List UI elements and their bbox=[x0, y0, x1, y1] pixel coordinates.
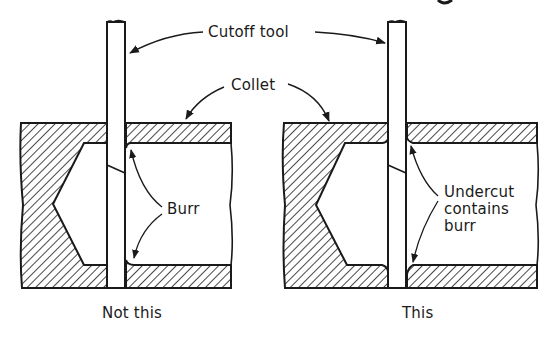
caption-this: This bbox=[402, 305, 433, 321]
left-workpiece-edge bbox=[230, 143, 232, 265]
left-cutoff-tool bbox=[107, 22, 125, 288]
left-burr-arrow-top bbox=[131, 150, 162, 207]
caption-not-this: Not this bbox=[102, 305, 162, 321]
clipped-heading-descender bbox=[438, 0, 452, 3]
right-undercut-arrow-top bbox=[411, 146, 438, 196]
collet-label: Collet bbox=[231, 77, 275, 93]
collet-arrow-left bbox=[186, 87, 224, 119]
right-cutoff-tool bbox=[388, 22, 406, 288]
collet-arrow-right bbox=[288, 84, 329, 121]
left-collet-bottom-bar bbox=[126, 260, 231, 288]
cutoff-tool-label: Cutoff tool bbox=[208, 24, 289, 40]
cutoff-tool-arrow-right bbox=[315, 32, 385, 43]
cutoff-diagram: Cutoff tool Collet Burr Undercut contain… bbox=[0, 0, 559, 338]
right-collet-top-bar bbox=[407, 123, 537, 143]
undercut-label: Undercut contains burr bbox=[444, 184, 514, 235]
left-diagram bbox=[20, 21, 232, 289]
right-collet-bottom-bar bbox=[407, 265, 537, 288]
right-diagram bbox=[283, 21, 539, 289]
burr-label: Burr bbox=[167, 201, 200, 217]
cutoff-tool-arrow-left bbox=[130, 32, 203, 53]
right-collet-section-left bbox=[283, 123, 388, 288]
left-burr-arrow-bottom bbox=[134, 214, 162, 258]
right-undercut-arrow-bottom bbox=[413, 201, 438, 262]
left-collet-top-bar bbox=[126, 123, 231, 148]
right-workpiece-edge bbox=[536, 143, 538, 265]
diagram-canvas bbox=[0, 0, 559, 338]
left-collet-section-left bbox=[20, 123, 107, 288]
